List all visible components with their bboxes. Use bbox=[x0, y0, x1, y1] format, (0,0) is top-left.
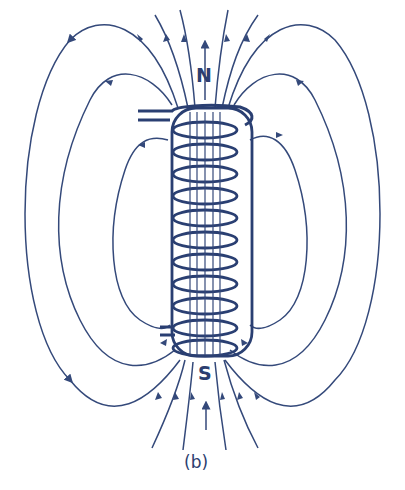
south-pole-label: S bbox=[198, 362, 212, 384]
field-line-inner-left bbox=[113, 138, 170, 328]
field-line-outer-left bbox=[25, 25, 180, 406]
field-line-top bbox=[155, 15, 188, 108]
field-line-mid-left bbox=[59, 74, 175, 365]
north-pole-label: N bbox=[196, 64, 212, 86]
solenoid-coil bbox=[138, 105, 252, 356]
figure-caption: (b) bbox=[184, 452, 208, 472]
field-line-inner-right bbox=[250, 136, 307, 328]
